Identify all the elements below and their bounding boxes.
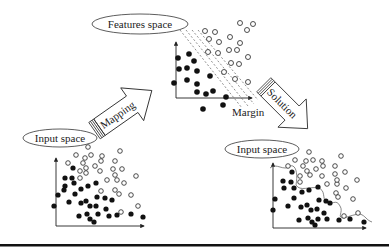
bottom-rule (0, 244, 389, 247)
svm-kernel-diagram: Features space Margin (0, 0, 389, 249)
features-space-label: Features space (108, 18, 173, 30)
input-space-panel-left: Input space (23, 129, 146, 226)
input-space-label-left: Input space (35, 132, 86, 144)
input-space-panel-right: Input space (225, 140, 372, 228)
class-a-points (171, 51, 229, 112)
input-space-label-right: Input space (237, 143, 288, 155)
margin-label: Margin (232, 106, 265, 118)
